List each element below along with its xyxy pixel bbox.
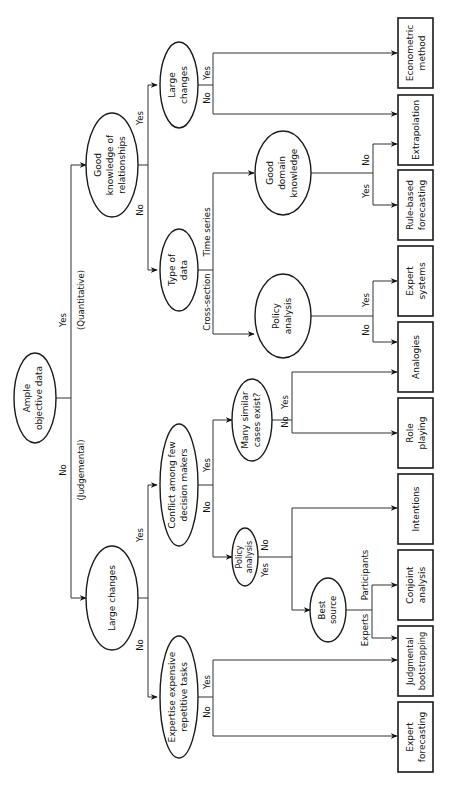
method-analogies: Analogies	[398, 322, 433, 392]
svg-text:Policy: Policy	[235, 545, 244, 568]
svg-text:playing: playing	[417, 417, 427, 450]
node-type-of-data: Type of data	[160, 229, 198, 311]
svg-text:Yes: Yes	[202, 675, 212, 690]
node-good-domain-knowledge: Good domain knowledge	[255, 131, 311, 215]
svg-text:No: No	[361, 154, 371, 166]
svg-text:(Quantitative): (Quantitative)	[76, 270, 86, 330]
svg-text:Type of: Type of	[167, 253, 177, 287]
svg-text:Yes: Yes	[260, 563, 270, 578]
svg-text:analysis: analysis	[283, 297, 293, 334]
svg-text:data: data	[179, 260, 189, 280]
svg-text:No: No	[135, 204, 145, 216]
svg-text:Yes: Yes	[361, 184, 371, 199]
svg-text:source: source	[328, 596, 338, 624]
svg-text:analysis: analysis	[417, 566, 427, 603]
svg-text:Econometric: Econometric	[405, 25, 415, 81]
method-expert-systems: Expert systems	[398, 246, 433, 316]
svg-text:knowledge: knowledge	[289, 148, 299, 197]
forecasting-decision-tree: Ample objective data Good knowledge of r…	[0, 0, 451, 799]
node-good-knowledge: Good knowledge of relationships	[86, 113, 138, 217]
svg-text:No: No	[135, 639, 145, 651]
svg-text:(Judgemental): (Judgemental)	[76, 439, 86, 500]
node-large-changes-judg: Large changes	[86, 546, 138, 650]
svg-text:cases exist?: cases exist?	[252, 393, 262, 448]
svg-text:Yes: Yes	[280, 395, 290, 410]
svg-text:Large changes: Large changes	[107, 565, 117, 631]
method-role-playing: Role playing	[398, 398, 433, 468]
svg-text:Yes: Yes	[58, 313, 68, 328]
svg-text:changes: changes	[179, 66, 189, 104]
svg-text:No: No	[361, 324, 371, 336]
svg-text:decision makers: decision makers	[179, 448, 189, 521]
svg-text:No: No	[202, 501, 212, 513]
method-rule-based: Rule-based forecasting	[398, 170, 433, 240]
svg-text:Extrapolation: Extrapolation	[411, 100, 421, 160]
svg-text:Conjoint: Conjoint	[405, 566, 415, 604]
svg-text:No: No	[280, 416, 290, 428]
svg-text:Time series: Time series	[202, 207, 212, 258]
svg-text:Large: Large	[167, 72, 177, 98]
method-intentions: Intentions	[398, 474, 433, 544]
svg-text:Rule-based: Rule-based	[405, 180, 415, 230]
svg-text:forecasting: forecasting	[417, 712, 427, 762]
svg-text:forecasting: forecasting	[417, 180, 427, 230]
method-econometric: Econometric method	[398, 18, 433, 88]
svg-text:Expertise expensive: Expertise expensive	[167, 651, 177, 742]
svg-text:Cross-section: Cross-section	[202, 273, 212, 331]
svg-text:Good: Good	[265, 161, 275, 185]
svg-text:domain: domain	[277, 156, 287, 190]
svg-text:objective data: objective data	[34, 366, 44, 430]
svg-text:No: No	[202, 706, 212, 718]
svg-text:Participants: Participants	[360, 549, 370, 600]
svg-text:bootstrapping: bootstrapping	[417, 632, 427, 691]
svg-text:Policy: Policy	[271, 302, 281, 329]
svg-text:Judgmental: Judgmental	[405, 637, 415, 686]
svg-text:Intentions: Intentions	[411, 486, 421, 531]
svg-text:No: No	[58, 464, 68, 476]
svg-text:Good: Good	[93, 153, 103, 177]
svg-text:Expert: Expert	[405, 722, 415, 752]
node-ample-objective-data: Ample objective data	[14, 353, 56, 443]
svg-text:Experts: Experts	[360, 613, 370, 646]
svg-text:No: No	[260, 539, 270, 551]
node-policy-analysis-judg: Policy analysis	[232, 528, 258, 586]
method-expert-forecasting: Expert forecasting	[398, 702, 433, 772]
svg-text:Yes: Yes	[202, 458, 212, 473]
method-judgmental-bootstrapping: Judgmental bootstrapping	[398, 626, 433, 696]
svg-text:Yes: Yes	[135, 528, 145, 543]
svg-text:Many similar: Many similar	[240, 391, 250, 449]
method-extrapolation: Extrapolation	[398, 95, 433, 165]
svg-text:Role: Role	[405, 423, 415, 443]
node-expertise-expensive: Expertise expensive repetitive tasks	[160, 636, 198, 758]
svg-text:No: No	[202, 92, 212, 104]
svg-text:Yes: Yes	[202, 66, 212, 81]
svg-text:systems: systems	[417, 262, 427, 300]
node-policy-analysis-quant: Policy analysis	[255, 274, 311, 358]
svg-text:analysis: analysis	[245, 541, 254, 573]
svg-text:method: method	[417, 36, 427, 71]
node-best-source: Best source	[310, 578, 346, 642]
svg-text:repetitive tasks: repetitive tasks	[179, 662, 189, 732]
svg-text:Ample: Ample	[22, 383, 32, 412]
svg-text:Analogies: Analogies	[411, 335, 421, 379]
node-many-similar-cases: Many similar cases exist?	[232, 379, 272, 461]
svg-text:Yes: Yes	[135, 111, 145, 126]
svg-text:knowledge of: knowledge of	[105, 134, 115, 195]
svg-text:Yes: Yes	[361, 293, 371, 308]
node-conflict: Conflict among few decision makers	[160, 424, 198, 546]
svg-text:Expert: Expert	[405, 266, 415, 296]
svg-text:Best: Best	[317, 600, 327, 619]
svg-text:relationships: relationships	[117, 136, 127, 194]
method-conjoint: Conjoint analysis	[398, 550, 433, 620]
node-large-changes-quant: Large changes	[160, 42, 198, 128]
svg-text:Conflict among few: Conflict among few	[167, 441, 177, 528]
